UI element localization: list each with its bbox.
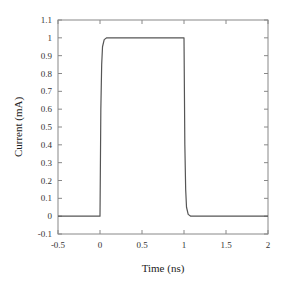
y-tick-label: 0.9 bbox=[41, 51, 53, 61]
x-tick-label: -0.5 bbox=[51, 240, 66, 250]
y-tick-label: -0.1 bbox=[38, 229, 52, 239]
y-tick-label: 0.1 bbox=[41, 193, 52, 203]
y-tick-label: 0.8 bbox=[41, 69, 53, 79]
x-tick-label: 0 bbox=[98, 240, 103, 250]
chart: -0.500.511.52-0.100.10.20.30.40.50.60.70… bbox=[0, 0, 284, 287]
y-tick-label: 0.6 bbox=[41, 104, 53, 114]
y-tick-label: 0 bbox=[48, 211, 53, 221]
y-axis-label: Current (mA) bbox=[12, 97, 25, 158]
series-line-current bbox=[58, 38, 268, 216]
y-tick-label: 1 bbox=[48, 33, 53, 43]
y-tick-label: 0.7 bbox=[41, 86, 53, 96]
y-tick-label: 0.4 bbox=[41, 140, 53, 150]
series-layer bbox=[58, 38, 268, 216]
x-tick-label: 2 bbox=[266, 240, 271, 250]
x-tick-label: 0.5 bbox=[136, 240, 148, 250]
y-tick-label: 0.3 bbox=[41, 158, 53, 168]
x-tick-label: 1 bbox=[182, 240, 187, 250]
plot-frame bbox=[58, 20, 268, 234]
y-tick-label: 0.2 bbox=[41, 176, 52, 186]
y-tick-label: 1.1 bbox=[41, 15, 52, 25]
x-tick-label: 1.5 bbox=[220, 240, 232, 250]
x-axis-label: Time (ns) bbox=[142, 262, 185, 275]
axes: -0.500.511.52-0.100.10.20.30.40.50.60.70… bbox=[38, 15, 271, 250]
y-tick-label: 0.5 bbox=[41, 122, 53, 132]
